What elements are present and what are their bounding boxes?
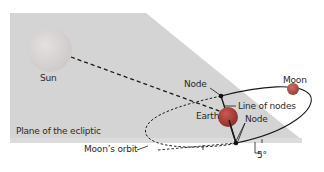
line-of-nodes-label: Line of nodes bbox=[238, 102, 296, 111]
diagram-canvas bbox=[0, 0, 324, 172]
plane-label: Plane of the ecliptic bbox=[16, 127, 101, 136]
node-lower-label: Node bbox=[245, 115, 268, 124]
node-upper-label: Node bbox=[184, 80, 207, 89]
sun-icon bbox=[28, 28, 72, 72]
angle-label: 5° bbox=[257, 151, 267, 160]
moons-orbit-label: Moon’s orbit bbox=[84, 145, 137, 154]
ecliptic-plane-edge bbox=[10, 138, 302, 143]
orbit-leader bbox=[137, 146, 148, 150]
earth-icon bbox=[218, 107, 238, 127]
ecliptic-line bbox=[158, 143, 236, 150]
earth-label: Earth bbox=[196, 112, 219, 121]
moon-label: Moon bbox=[283, 76, 307, 85]
node-lower-dot bbox=[234, 141, 239, 146]
sun-label: Sun bbox=[40, 74, 57, 83]
